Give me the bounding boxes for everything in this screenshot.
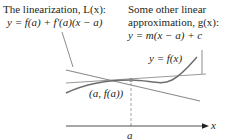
other-approx-equation: y = m(x − a) + c [128, 29, 202, 41]
other-approx-line1: Some other linear [128, 3, 206, 15]
other-approx-line2: approximation, g(x): [128, 16, 219, 28]
linearization-title: The linearization, L(x): [3, 3, 106, 15]
linearization-equation: y = f(a) + f′(a)(x − a) [7, 16, 103, 28]
tangent-point [129, 78, 133, 82]
x-axis-arrow-icon [202, 123, 209, 128]
x-tick-label-a: a [127, 129, 133, 140]
curve-label: y = f(x) [149, 52, 182, 64]
linearization-leader-line [62, 32, 73, 67]
point-label: (a, f(a)) [89, 87, 123, 99]
x-axis-label: x [211, 119, 216, 131]
